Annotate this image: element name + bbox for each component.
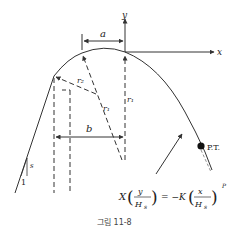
eq-lhs-den: H — [134, 200, 143, 209]
eq-exponent: P — [221, 182, 227, 189]
x-axis-label: x — [217, 47, 222, 57]
eq-equals: = −K — [161, 192, 187, 202]
figure-caption: 그림 11-8 — [97, 217, 132, 227]
dimension-a-label: a — [100, 28, 106, 39]
crest-profile-curve — [15, 48, 212, 193]
eq-rhs-den: H — [194, 200, 203, 209]
eq-rparen-2: ) — [211, 187, 218, 207]
slope-run-label: 1 — [21, 178, 26, 187]
eq-coef: X — [118, 191, 127, 202]
slope-triangle — [21, 158, 27, 176]
spillway-crest-diagram: y x a r₁ r₁ r₂ b s 1 P.T. X ( y H s ) = … — [0, 0, 243, 232]
radius-r2 — [56, 77, 96, 94]
slope-rise-label: s — [30, 162, 34, 170]
pt-label: P.T. — [207, 143, 220, 152]
pt-point — [197, 142, 204, 149]
equation-leader-arrow — [156, 134, 182, 174]
r1-left-label: r₁ — [103, 104, 110, 113]
eq-lparen-1: ( — [127, 187, 134, 207]
eq-rparen-1: ) — [151, 187, 158, 207]
eq-lhs-num: y — [137, 187, 143, 196]
r1-right-label: r₁ — [127, 95, 134, 104]
eq-lhs-den-sub: s — [144, 203, 147, 210]
y-axis-label: y — [121, 10, 128, 20]
eq-lparen-2: ( — [188, 187, 195, 207]
eq-rhs-den-sub: s — [204, 203, 207, 210]
dimension-b-label: b — [86, 123, 92, 134]
eq-rhs-num: x — [198, 187, 203, 196]
profile-equation: X ( y H s ) = −K ( x H s ) P — [118, 182, 227, 210]
r2-label: r₂ — [77, 76, 84, 85]
